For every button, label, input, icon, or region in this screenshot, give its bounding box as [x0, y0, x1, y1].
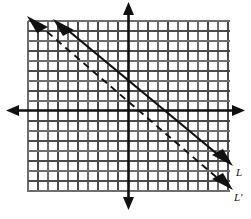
x-axis-left-arrowhead: [6, 105, 19, 116]
line-l-prime-stroke: [38, 24, 222, 182]
x-axis: [6, 105, 245, 116]
label-line-l: L: [235, 166, 242, 178]
y-axis-top-arrowhead: [123, 2, 134, 15]
figure-root: L L′: [0, 0, 251, 219]
axes-group: [6, 2, 245, 210]
y-axis-bottom-arrowhead: [123, 197, 134, 210]
label-line-l-prime: L′: [233, 191, 243, 203]
x-axis-right-arrowhead: [232, 105, 245, 116]
coordinate-plane-figure: L L′: [0, 0, 251, 219]
